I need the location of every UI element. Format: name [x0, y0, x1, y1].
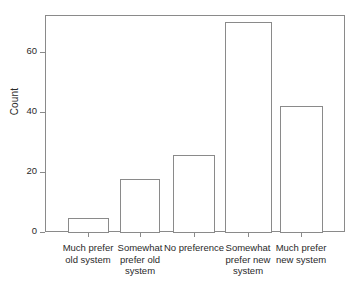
bar-much-prefer-new-system [280, 106, 323, 233]
plot-area [45, 15, 345, 232]
x-axis-label-line: new system [261, 254, 341, 266]
y-tick-label-40: 40 [26, 105, 37, 116]
y-tick-label-60: 60 [26, 45, 37, 56]
bar-no-preference [173, 155, 215, 233]
x-axis-label-much-prefer-new-system: Much prefernew system [261, 242, 341, 265]
y-axis-title: Count [9, 62, 20, 142]
bar-somewhat-prefer-old-system [120, 179, 160, 233]
y-tick-20: 20 [0, 172, 45, 173]
x-axis-label-line: system [100, 265, 180, 277]
x-tick-mark-4 [301, 232, 302, 237]
x-axis-label-line: Much prefer [261, 242, 341, 254]
y-tick-mark-0 [40, 232, 45, 233]
x-tick-mark-3 [248, 232, 249, 237]
x-tick-mark-1 [140, 232, 141, 237]
y-tick-40: 40 [0, 112, 45, 113]
bar-chart-figure: Count 0 20 40 60 Much preferold system S… [0, 0, 361, 290]
x-axis-label-line: prefer old [100, 254, 180, 266]
x-tick-mark-2 [194, 232, 195, 237]
y-tick-0: 0 [0, 232, 45, 233]
bar-somewhat-prefer-new-system [225, 22, 272, 233]
y-tick-60: 60 [0, 52, 45, 53]
bar-much-prefer-old-system [68, 218, 109, 233]
y-tick-label-20: 20 [26, 165, 37, 176]
y-tick-label-0: 0 [32, 225, 37, 236]
x-axis-label-line: system [208, 265, 288, 277]
x-tick-mark-0 [88, 232, 89, 237]
